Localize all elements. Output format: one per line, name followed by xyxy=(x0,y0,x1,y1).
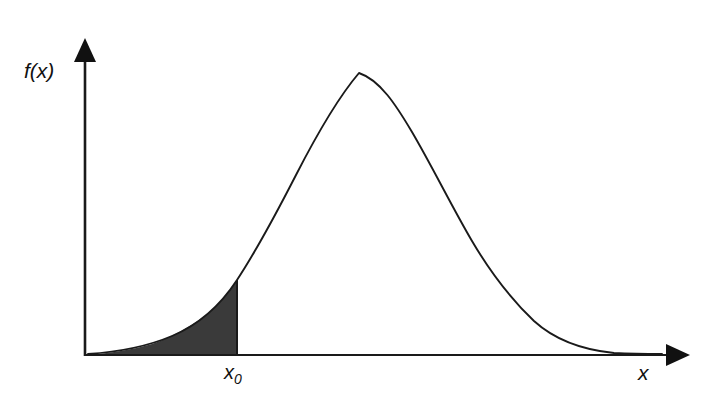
threshold-label-base: x xyxy=(224,361,234,383)
threshold-label-subscript: 0 xyxy=(234,371,242,387)
x-axis-label: x xyxy=(638,362,649,383)
probability-density-figure: f(x) x x0 xyxy=(0,0,715,405)
density-curve xyxy=(88,73,662,354)
density-plot-canvas xyxy=(0,0,715,405)
threshold-label-x0: x0 xyxy=(224,362,242,386)
left-tail-shaded-area xyxy=(88,280,237,355)
y-axis-label: f(x) xyxy=(24,60,54,81)
x-axis-arrow-icon xyxy=(666,344,690,366)
y-axis-arrow-icon xyxy=(74,38,96,62)
